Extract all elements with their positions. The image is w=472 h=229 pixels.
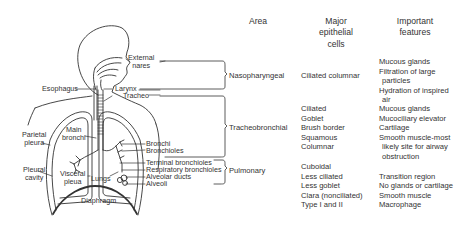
cell-item: Less goblet <box>301 181 363 191</box>
feature-item: Macrophage <box>379 200 453 210</box>
feature-item: Hydration of inspired <box>379 86 449 96</box>
feature-item: obstruction <box>379 152 450 162</box>
area-pulmonary: Pulmonary <box>229 166 265 175</box>
label-tracheo: Tracheo <box>123 92 149 100</box>
cells-nasopharyngeal: Ciliated columnar <box>301 71 360 81</box>
label-pleural-cavity-line2: cavity <box>23 174 45 182</box>
head-outline <box>78 26 156 124</box>
features-nasopharyngeal: Mucous glands Filtration of large partic… <box>379 57 449 105</box>
cell-item: Columnar <box>301 142 345 152</box>
cell-item: Less ciliated <box>301 172 363 182</box>
label-visceral-pleura-line2: pleua <box>60 178 85 186</box>
feature-item: Smooth muscle <box>379 191 453 201</box>
label-parietal-pleura: Parietal pleura <box>22 131 46 147</box>
feature-item: Smooth muscle-most <box>379 133 450 143</box>
header-important-features: Important features <box>385 16 445 39</box>
feature-item: likely site for airway <box>379 142 450 152</box>
header-major-epithelial-cells: Major epithelial cells <box>310 16 362 50</box>
feature-item: particles <box>379 76 449 86</box>
label-bronchioles: Bronchioles <box>146 147 184 155</box>
cell-item: Squamous <box>301 133 345 143</box>
header-cells-line1: Major <box>310 16 362 27</box>
area-nasopharyngeal: Nasopharyngeal <box>229 71 284 80</box>
feature-item: Filtration of large <box>379 67 449 77</box>
feature-item: Mucociliary elevator <box>379 114 450 124</box>
header-area: Area <box>238 16 278 27</box>
label-diaphragm: Diaphragm <box>81 197 116 205</box>
feature-item: Mucous glands <box>379 57 449 67</box>
features-pulmonary: Transition region No glands or cartilage… <box>379 162 453 210</box>
header-features-line2: features <box>385 27 445 38</box>
label-parietal-pleura-line2: pleura <box>22 139 46 147</box>
features-tracheobronchial: Mucous glands Mucociliary elevator Carti… <box>379 104 450 162</box>
label-visceral-pleura: Visceral pleua <box>60 170 85 186</box>
feature-item: Mucous glands <box>379 104 450 114</box>
cell-item: Cuboidal <box>301 162 363 172</box>
header-cells-line2: epithelial <box>310 27 362 38</box>
feature-item <box>379 162 453 172</box>
label-esophagus: Esophagus <box>42 85 78 93</box>
label-external-nares-line2: nares <box>128 62 154 70</box>
cell-item: Ciliated columnar <box>301 71 360 81</box>
header-features-line1: Important <box>385 16 445 27</box>
label-lungs: Lungs <box>91 175 111 183</box>
label-external-nares: External nares <box>128 54 154 70</box>
cell-item: Goblet <box>301 114 345 124</box>
feature-item: Transition region <box>379 172 453 182</box>
feature-item: No glands or cartilage <box>379 181 453 191</box>
area-tracheobronchial: Tracheobronchial <box>229 123 287 132</box>
feature-item: Cartilage <box>379 123 450 133</box>
cells-tracheobronchial: Ciliated Goblet Brush border Squamous Co… <box>301 104 345 152</box>
label-alveoli: Alveoli <box>146 180 167 188</box>
label-pleural-cavity: Pleural cavity <box>23 166 45 182</box>
cell-item: Brush border <box>301 123 345 133</box>
header-cells-line3: cells <box>310 39 362 50</box>
label-main-bronchi-line2: bronchi <box>62 134 86 142</box>
cell-item: Clara (nonciliated) <box>301 191 363 201</box>
cells-pulmonary: Cuboidal Less ciliated Less goblet Clara… <box>301 162 363 210</box>
cell-item: Type I and II <box>301 200 363 210</box>
label-main-bronchi: Main bronchi <box>62 126 86 142</box>
cell-item: Ciliated <box>301 104 345 114</box>
